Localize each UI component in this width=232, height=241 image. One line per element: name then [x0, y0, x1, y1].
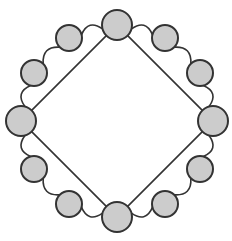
graph-svg	[0, 0, 232, 241]
graph-node-n9[interactable]	[6, 106, 36, 136]
graph-node-n1[interactable]	[152, 25, 178, 51]
graph-node-n10[interactable]	[21, 60, 47, 86]
node-circle[interactable]	[187, 156, 213, 182]
graph-node-n8[interactable]	[21, 156, 47, 182]
graph-node-n4[interactable]	[187, 156, 213, 182]
node-circle[interactable]	[6, 106, 36, 136]
graph-node-n0[interactable]	[102, 10, 132, 40]
node-circle[interactable]	[187, 60, 213, 86]
node-circle[interactable]	[21, 60, 47, 86]
node-circle[interactable]	[198, 106, 228, 136]
graph-node-n6[interactable]	[102, 202, 132, 232]
node-circle[interactable]	[56, 191, 82, 217]
node-circle[interactable]	[102, 202, 132, 232]
graph-node-n7[interactable]	[56, 191, 82, 217]
node-circle[interactable]	[152, 25, 178, 51]
graph-node-n11[interactable]	[56, 25, 82, 51]
node-circle[interactable]	[102, 10, 132, 40]
graph-node-n2[interactable]	[187, 60, 213, 86]
node-circle[interactable]	[152, 191, 178, 217]
graph-node-n3[interactable]	[198, 106, 228, 136]
node-circle[interactable]	[21, 156, 47, 182]
graph-node-n5[interactable]	[152, 191, 178, 217]
node-circle[interactable]	[56, 25, 82, 51]
graph-diagram-canvas	[0, 0, 232, 241]
